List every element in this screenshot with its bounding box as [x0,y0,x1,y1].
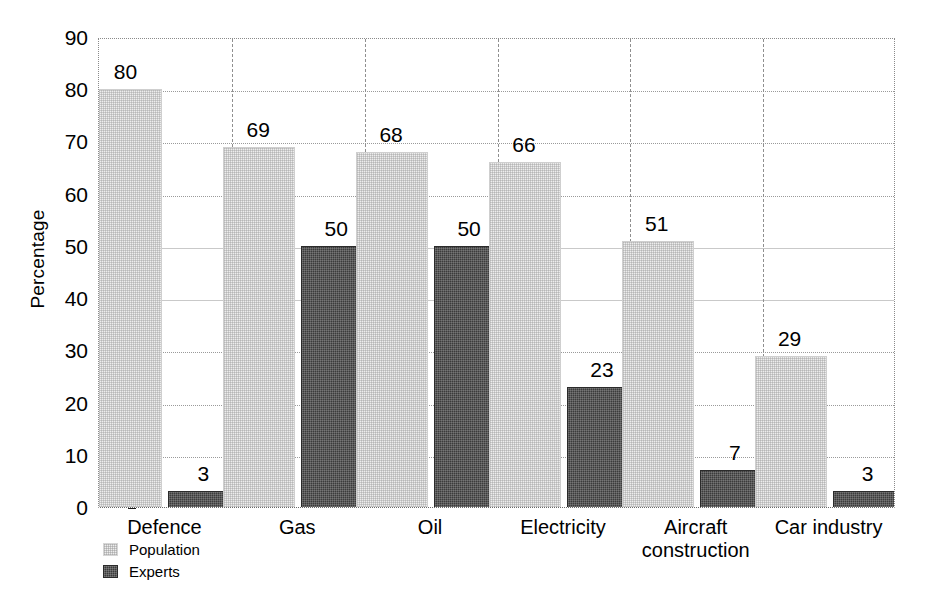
bar-value-label: 66 [488,134,560,155]
bar-experts [833,491,895,507]
bar-population [755,356,827,507]
bar-population [98,89,162,507]
y-axis-tick-label: 90 [44,27,88,48]
bar-chart: Percentage 0102030405060708090 DefenceGa… [0,0,932,607]
bar-value-label: 50 [433,218,505,239]
y-axis-tick-label: 20 [44,393,88,414]
legend-swatch-icon [103,543,118,556]
bar-value-label: 50 [300,218,372,239]
bar-value-label: 69 [222,119,294,140]
legend-item[interactable]: Population [103,540,323,559]
legend: PopulationExperts [103,540,323,584]
legend-item-label: Experts [129,564,180,580]
y-axis-tick-label: 80 [44,79,88,100]
bar-value-label: 80 [89,61,161,82]
y-axis-tick-mark [128,508,136,509]
legend-item[interactable]: Experts [103,562,323,581]
y-axis-tick-label: 50 [44,236,88,257]
y-axis-tick-label: 40 [44,288,88,309]
y-axis-tick-label: 30 [44,340,88,361]
bar-value-label: 7 [699,442,771,463]
bar-population [223,147,295,507]
bar-value-label: 3 [832,463,904,484]
bar-value-label: 51 [621,213,693,234]
bar-population [489,162,561,507]
legend-swatch-icon [103,565,118,578]
gridline [99,91,894,92]
y-axis-tick-label: 0 [44,497,88,518]
y-axis-tick-label: 60 [44,184,88,205]
bar-value-label: 3 [167,463,239,484]
bar-value-label: 23 [566,359,638,380]
bar-population [356,152,428,507]
x-axis-tick-label: Car industry [748,516,909,539]
y-axis-tick-label: 70 [44,131,88,152]
legend-item-label: Population [129,542,200,558]
y-axis-tick-label: 10 [44,445,88,466]
bar-value-label: 29 [754,328,826,349]
plot-area [98,38,895,508]
y-axis-tick-labels: 0102030405060708090 [38,0,88,607]
bar-value-label: 68 [355,124,427,145]
